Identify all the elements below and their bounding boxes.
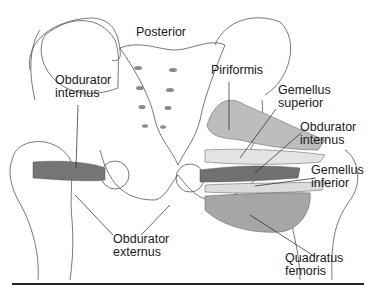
label-obturator-externus: Obdurator externus (113, 233, 169, 259)
label-line: Piriformis (211, 64, 263, 77)
obturator-internus-left-muscle (33, 161, 105, 181)
label-line: internus (55, 87, 111, 100)
label-line: femoris (285, 265, 343, 278)
label-obturator-internus-left: Obdurator internus (55, 74, 111, 100)
orientation-label: Posterior (136, 26, 186, 39)
label-gemellus-superior: Gemellus superior (278, 84, 331, 110)
obturator-internus-right-muscle (200, 166, 300, 182)
sacrum (120, 43, 225, 165)
label-line: inferior (311, 177, 364, 190)
quadratus-femoris-muscle (205, 193, 310, 233)
label-gemellus-inferior: Gemellus inferior (311, 164, 364, 190)
label-line: internus (300, 134, 356, 147)
gemellus-inferior-muscle (205, 182, 325, 193)
label-line: externus (113, 246, 169, 259)
gemellus-superior-muscle (205, 149, 325, 164)
label-piriformis: Piriformis (211, 64, 263, 77)
label-line: superior (278, 97, 331, 110)
bottom-rule (12, 283, 364, 285)
label-obturator-internus-right: Obdurator internus (300, 121, 356, 147)
label-quadratus-femoris: Quadratus femoris (285, 252, 343, 278)
